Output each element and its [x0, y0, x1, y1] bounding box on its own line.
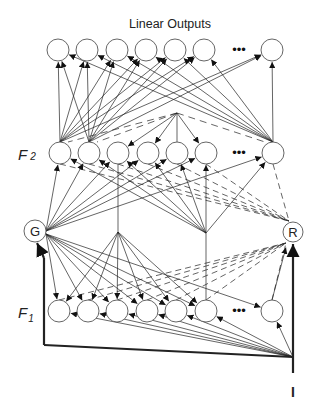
edge-g-f2: [46, 158, 195, 231]
edge-f2-output: [98, 55, 273, 142]
edge-hub2-f2: [71, 159, 206, 233]
edge-f2-reset: [177, 164, 289, 221]
f2-node: [195, 142, 217, 164]
edge-hub3-f1: [66, 232, 118, 301]
edge-f2-reset: [89, 164, 289, 221]
edge-g-f2: [46, 162, 110, 231]
edge-f1-reset: [147, 243, 286, 300]
edge-g-f1: [46, 234, 137, 304]
edge-hub-f2: [155, 113, 177, 143]
f1-label: F1: [18, 304, 34, 324]
edge-g-f1: [46, 234, 261, 307]
input-line-bottom: [44, 345, 293, 357]
gain-node-label: G: [30, 224, 40, 239]
edge-f2-output: [127, 56, 273, 142]
input-label: I: [291, 384, 295, 400]
f2-ellipsis: •••: [232, 145, 246, 160]
f2-label: F2: [18, 146, 36, 163]
f2-node: [137, 142, 159, 164]
nodes: •••••••••GR: [24, 39, 303, 322]
output-node: [135, 39, 157, 61]
edge-f2-output: [272, 62, 273, 142]
output-node: [164, 39, 186, 61]
edge-hub3-f1: [118, 232, 169, 301]
f2-node: [78, 142, 100, 164]
edge-f2-output: [60, 62, 84, 142]
edge-g-f2: [46, 157, 262, 231]
edge-f2-output: [60, 60, 111, 142]
edge-f2-output: [58, 62, 60, 142]
f1-node: [77, 300, 99, 322]
reset-node-label: R: [288, 225, 297, 240]
edge-f1-reset: [176, 243, 286, 300]
edge-g-f1: [46, 234, 195, 306]
f1-node: [165, 300, 187, 322]
output-ellipsis: •••: [232, 42, 246, 57]
title-linear-outputs: Linear Outputs: [129, 17, 211, 31]
f2-node: [49, 142, 71, 164]
edge-g-f1: [46, 234, 166, 305]
edge-hub-f2: [177, 113, 199, 143]
output-node: [106, 39, 128, 61]
edge-g-f2: [46, 159, 167, 231]
edge-f1-reset-arrow: [272, 248, 286, 300]
edge-hub2-f2: [155, 163, 206, 233]
edge-hub3-f1: [92, 232, 118, 300]
edge-f2-reset: [60, 164, 289, 221]
edge-hub-dashed: [177, 113, 265, 142]
f1-node: [136, 300, 158, 322]
edge-input-f1: [100, 314, 293, 357]
f1-ellipsis: •••: [232, 303, 246, 318]
edge-g-f2: [46, 165, 58, 231]
edge-hub2-f2: [127, 161, 206, 233]
edge-f2-output: [60, 59, 138, 142]
edge-f2-output: [60, 55, 261, 142]
output-node: [261, 39, 283, 61]
f1-node: [261, 300, 283, 322]
edge-hub-dashed: [97, 113, 177, 142]
network-diagram: Linear Outputs •••••••••GR F2 F1 I: [0, 0, 321, 411]
edge-hub2-f2: [181, 164, 206, 233]
f1-node: [48, 300, 70, 322]
f2-node: [262, 142, 284, 164]
edge-f2-output: [184, 58, 273, 142]
connections: [37, 55, 293, 373]
input-to-g: [37, 243, 44, 258]
edge-f2-output: [60, 57, 166, 142]
edge-f1-reset: [59, 243, 286, 300]
edge-hub3-f1: [118, 232, 197, 303]
edge-f2-reset: [273, 164, 289, 221]
output-node: [47, 39, 69, 61]
f1-node: [106, 300, 128, 322]
edge-hub-f2: [128, 113, 177, 146]
f1-node: [195, 300, 217, 322]
output-node: [193, 39, 215, 61]
f2-node: [107, 142, 129, 164]
output-node: [76, 39, 98, 61]
edge-f2-output: [211, 60, 273, 142]
f2-node: [166, 142, 188, 164]
